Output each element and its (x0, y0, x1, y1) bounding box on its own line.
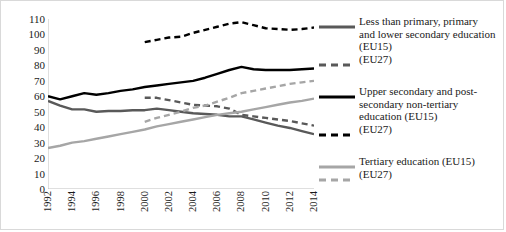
x-tick-label: 2014 (309, 191, 320, 212)
x-tick-label: 2010 (261, 191, 272, 212)
x-tick-label: 1998 (116, 191, 127, 212)
plot-area (48, 19, 314, 189)
legend-label-dashed: (EU27) (359, 168, 392, 181)
y-tick-label: 110 (3, 14, 45, 25)
chart-legend: Less than primary, primary and lower sec… (319, 15, 503, 215)
x-tick-label: 2012 (285, 191, 296, 212)
legend-label-solid: Less than primary, primary and lower sec… (359, 15, 496, 53)
x-tick-label: 1992 (43, 191, 54, 212)
x-tick-label: 2006 (212, 191, 223, 212)
x-tick-label: 1996 (91, 191, 102, 212)
legend-group: Tertiary education (EU15)(EU27) (319, 155, 503, 180)
legend-label-dashed: (EU27) (359, 123, 392, 136)
series-line (48, 99, 314, 148)
y-tick-label: 20 (3, 153, 45, 164)
y-tick-label: 80 (3, 60, 45, 71)
legend-label-solid: Tertiary education (EU15) (359, 155, 475, 168)
legend-item-solid[interactable]: Tertiary education (EU15) (319, 155, 503, 168)
legend-line-dashed-icon (319, 57, 355, 69)
legend-line-dashed-icon (319, 127, 355, 139)
x-tick-label: 1994 (67, 191, 78, 212)
y-axis: 0102030405060708090100110 (1, 13, 45, 195)
x-tick-label: 2004 (188, 191, 199, 212)
y-tick-label: 0 (3, 184, 45, 195)
chart-lines (48, 19, 314, 189)
series-line (145, 22, 314, 42)
y-tick-label: 60 (3, 91, 45, 102)
legend-group: Less than primary, primary and lower sec… (319, 15, 503, 65)
legend-line-solid-icon (319, 89, 355, 101)
legend-item-solid[interactable]: Upper secondary and post- secondary non-… (319, 85, 503, 123)
legend-line-solid-icon (319, 19, 355, 31)
y-tick-label: 30 (3, 137, 45, 148)
y-tick-label: 70 (3, 75, 45, 86)
legend-line-dashed-icon (319, 172, 355, 184)
y-tick-label: 50 (3, 106, 45, 117)
y-tick-label: 100 (3, 29, 45, 40)
legend-item-dashed[interactable]: (EU27) (319, 168, 503, 181)
x-tick-label: 2002 (164, 191, 175, 212)
x-axis: 1992199419961998200020022004200620082010… (48, 191, 314, 231)
legend-label-dashed: (EU27) (359, 53, 392, 66)
series-line (48, 67, 314, 99)
y-tick-label: 40 (3, 122, 45, 133)
legend-group: Upper secondary and post- secondary non-… (319, 85, 503, 135)
y-tick-label: 90 (3, 44, 45, 55)
legend-item-dashed[interactable]: (EU27) (319, 123, 503, 136)
x-tick-label: 2000 (140, 191, 151, 212)
x-tick-label: 2008 (236, 191, 247, 212)
chart-figure: 0102030405060708090100110 19921994199619… (0, 0, 504, 230)
y-tick-label: 10 (3, 168, 45, 179)
legend-label-solid: Upper secondary and post- secondary non-… (359, 85, 477, 123)
legend-item-solid[interactable]: Less than primary, primary and lower sec… (319, 15, 503, 53)
legend-item-dashed[interactable]: (EU27) (319, 53, 503, 66)
